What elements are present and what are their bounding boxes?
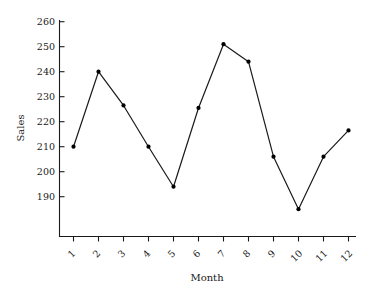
- y-tick-label: 230: [37, 91, 55, 102]
- y-tick-label: 260: [37, 16, 55, 27]
- data-point: [196, 106, 200, 110]
- data-point: [171, 185, 175, 189]
- data-point: [271, 155, 275, 159]
- y-tick-label: 240: [37, 66, 55, 77]
- data-point: [96, 70, 100, 74]
- y-tick-label: 220: [37, 116, 55, 127]
- chart-canvas: 260 250 240 230 220 210 200 190 1: [0, 0, 382, 289]
- chart-background: [0, 0, 382, 289]
- data-point: [121, 103, 125, 107]
- y-axis-title: Sales: [15, 114, 26, 141]
- data-point: [221, 42, 225, 46]
- y-tick-label: 210: [37, 141, 55, 152]
- data-point: [246, 60, 250, 64]
- y-tick-label: 250: [37, 41, 55, 52]
- data-point: [296, 207, 300, 211]
- y-tick-label: 190: [37, 191, 55, 202]
- line-chart: 260 250 240 230 220 210 200 190 1: [0, 0, 382, 289]
- data-point: [346, 128, 350, 132]
- data-point: [71, 145, 75, 149]
- x-axis-title: Month: [190, 272, 224, 283]
- data-point: [321, 155, 325, 159]
- y-tick-label: 200: [37, 166, 55, 177]
- data-point: [146, 145, 150, 149]
